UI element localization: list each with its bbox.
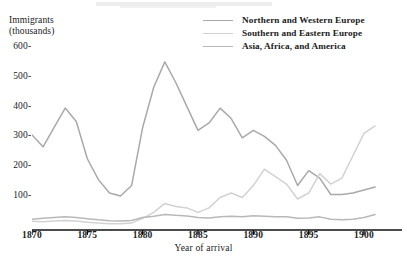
y-tick-label-300: 300 (2, 130, 28, 140)
y-tick-label-600: 600 (2, 41, 28, 51)
series-line-asia-africa-and-america (32, 214, 375, 221)
legend-swatch-northern-western-europe (203, 20, 233, 21)
x-axis-title: Year of arrival (0, 243, 407, 253)
legend-label-northern-western-europe: Northern and Western Europe (242, 15, 365, 25)
series-line-northern-and-western-europe (32, 62, 375, 196)
legend-label-southern-eastern-europe: Southern and Eastern Europe (242, 28, 362, 38)
legend-item-northern-western-europe: Northern and Western Europe (203, 14, 365, 26)
clipped-caption (96, 256, 396, 263)
legend-item-southern-eastern-europe: Southern and Eastern Europe (203, 27, 365, 39)
y-tick-mark-500: - (28, 71, 31, 81)
y-tick-mark-200: - (28, 160, 31, 170)
y-axis-title: Immigrants (thousands) (9, 15, 54, 37)
y-tick-mark-300: - (28, 130, 31, 140)
plot-svg (32, 40, 402, 240)
y-tick-label-500: 500 (2, 71, 28, 81)
y-tick-label-400: 400 (2, 101, 28, 111)
y-tick-mark-600: - (28, 41, 31, 51)
y-tick-label-200: 200 (2, 160, 28, 170)
top-clipped-rule-secondary (120, 6, 216, 8)
legend-swatch-southern-eastern-europe (203, 33, 233, 34)
immigration-line-chart-figure: Immigrants (thousands) Northern and West… (0, 0, 407, 269)
y-tick-label-100: 100 (2, 190, 28, 200)
y-tick-mark-400: - (28, 101, 31, 111)
series-line-southern-and-eastern-europe (32, 126, 375, 224)
plot-area (32, 40, 402, 230)
y-tick-mark-100: - (28, 190, 31, 200)
